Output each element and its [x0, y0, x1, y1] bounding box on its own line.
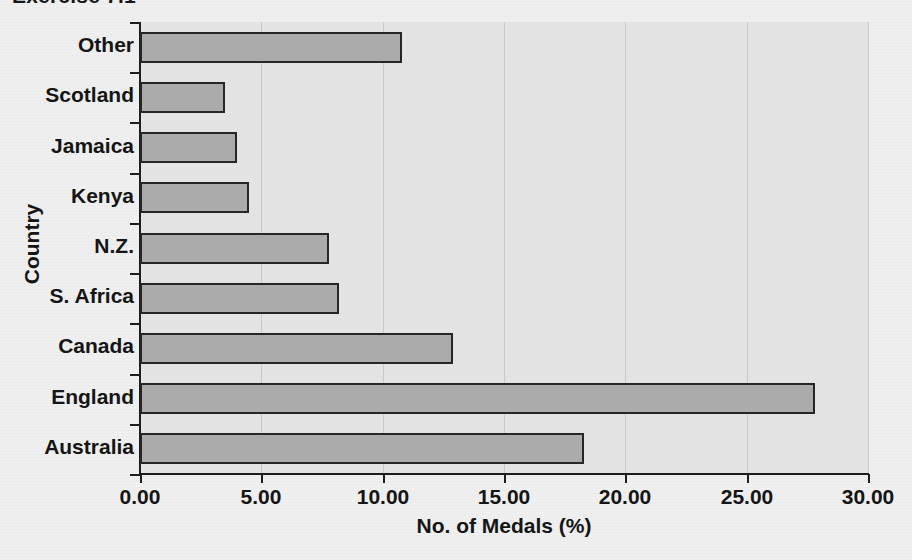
y-axis-title: Country — [20, 174, 44, 314]
x-axis-title: No. of Medals (%) — [140, 514, 868, 538]
bar-kenya[interactable] — [140, 182, 249, 213]
y-axis-label: Canada — [4, 334, 140, 358]
x-axis-tick — [625, 474, 627, 483]
chart-title: Exercise 7.1 — [12, 0, 136, 8]
x-axis-label: 10.00 — [357, 485, 410, 509]
gridline — [868, 22, 869, 474]
x-axis-tick — [140, 474, 142, 483]
bar-england[interactable] — [140, 383, 815, 414]
bar-australia[interactable] — [140, 433, 584, 464]
bars-layer — [140, 22, 868, 474]
x-axis-label: 25.00 — [721, 485, 774, 509]
bar-other[interactable] — [140, 32, 402, 63]
x-axis-tick — [261, 474, 263, 483]
y-axis-label: Scotland — [4, 83, 140, 107]
bar-jamaica[interactable] — [140, 132, 237, 163]
bar-scotland[interactable] — [140, 82, 225, 113]
x-axis-label: 0.00 — [120, 485, 161, 509]
x-axis-tick — [868, 474, 870, 483]
y-axis-label: Jamaica — [4, 134, 140, 158]
x-axis-label: 20.00 — [599, 485, 652, 509]
x-axis-tick — [383, 474, 385, 483]
y-axis-label: Australia — [4, 435, 140, 459]
x-axis-label: 30.00 — [842, 485, 895, 509]
x-axis-ticks-and-labels: 0.005.0010.0015.0020.0025.0030.00 — [140, 474, 868, 514]
bar-s-africa[interactable] — [140, 283, 339, 314]
y-axis-label: Other — [4, 33, 140, 57]
chart-page: Exercise 7.1 AustraliaEnglandCanadaS. Af… — [0, 0, 912, 560]
x-axis-tick — [504, 474, 506, 483]
x-axis-label: 15.00 — [478, 485, 531, 509]
bar-canada[interactable] — [140, 333, 453, 364]
bar-n-z[interactable] — [140, 233, 329, 264]
y-axis-tick — [130, 474, 140, 476]
y-axis-label: England — [4, 385, 140, 409]
x-axis-label: 5.00 — [241, 485, 282, 509]
x-axis-tick — [747, 474, 749, 483]
